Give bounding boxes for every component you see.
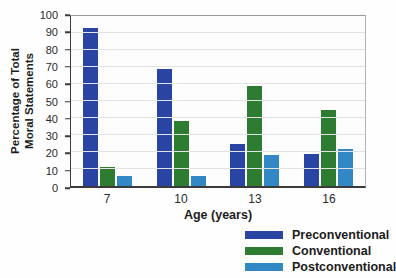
y-tick-label-10: 10 bbox=[46, 165, 58, 176]
gridline-40 bbox=[71, 117, 365, 118]
bar-preconventional-age-16 bbox=[304, 154, 319, 186]
legend-label-conventional: Conventional bbox=[292, 244, 371, 258]
bar-postconventional-age-10 bbox=[191, 176, 206, 186]
x-tick-label-13: 13 bbox=[218, 192, 292, 206]
legend-swatch-postconventional bbox=[245, 263, 283, 271]
gridline-70 bbox=[71, 66, 365, 67]
y-tick-label-60: 60 bbox=[46, 79, 58, 90]
legend-swatch-preconventional bbox=[245, 231, 283, 239]
y-tick-label-50: 50 bbox=[46, 96, 58, 107]
bar-preconventional-age-7 bbox=[83, 28, 98, 186]
bar-conventional-age-10 bbox=[174, 121, 189, 186]
x-tick-label-16: 16 bbox=[292, 192, 366, 206]
gridline-20 bbox=[71, 151, 365, 152]
y-tick-label-70: 70 bbox=[46, 61, 58, 72]
legend-label-postconventional: Postconventional bbox=[292, 260, 396, 274]
gridline-10 bbox=[71, 168, 365, 169]
bar-conventional-age-7 bbox=[100, 167, 115, 186]
gridline-50 bbox=[71, 100, 365, 101]
bar-group-age-7 bbox=[71, 16, 145, 186]
x-axis-title: Age (years) bbox=[70, 208, 366, 222]
legend: PreconventionalConventionalPostconventio… bbox=[245, 227, 396, 275]
bar-preconventional-age-13 bbox=[230, 144, 245, 187]
y-tick-label-80: 80 bbox=[46, 44, 58, 55]
bar-postconventional-age-7 bbox=[117, 176, 132, 186]
bar-postconventional-age-13 bbox=[264, 155, 279, 186]
x-tick-label-7: 7 bbox=[70, 192, 144, 206]
legend-row-postconventional: Postconventional bbox=[245, 259, 396, 275]
legend-row-preconventional: Preconventional bbox=[245, 227, 396, 243]
plot-area bbox=[70, 15, 366, 188]
y-tick-label-40: 40 bbox=[46, 113, 58, 124]
y-tick-label-30: 30 bbox=[46, 131, 58, 142]
x-axis: 7101316 bbox=[70, 192, 366, 206]
bar-groups bbox=[71, 16, 365, 186]
y-tick-label-100: 100 bbox=[40, 10, 58, 21]
bar-group-age-13 bbox=[218, 16, 292, 186]
y-tick-label-20: 20 bbox=[46, 148, 58, 159]
y-tick-label-0: 0 bbox=[52, 183, 58, 194]
bar-conventional-age-16 bbox=[321, 110, 336, 187]
y-axis: 0102030405060708090100 bbox=[0, 15, 70, 188]
legend-label-preconventional: Preconventional bbox=[292, 228, 389, 242]
gridline-90 bbox=[71, 32, 365, 33]
bar-group-age-10 bbox=[145, 16, 219, 186]
legend-row-conventional: Conventional bbox=[245, 243, 396, 259]
legend-swatch-conventional bbox=[245, 247, 283, 255]
x-tick-label-10: 10 bbox=[144, 192, 218, 206]
bar-group-age-16 bbox=[292, 16, 366, 186]
y-tick-label-90: 90 bbox=[46, 27, 58, 38]
gridline-30 bbox=[71, 134, 365, 135]
gridline-60 bbox=[71, 83, 365, 84]
gridline-80 bbox=[71, 49, 365, 50]
